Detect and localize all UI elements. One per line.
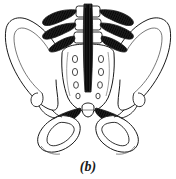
figure-caption: (b) — [0, 158, 176, 176]
pelvis-anatomy-illustration — [0, 0, 176, 160]
coccyx — [82, 103, 94, 117]
figure-container: (b) — [0, 0, 176, 179]
spinous-process-band — [83, 4, 92, 92]
